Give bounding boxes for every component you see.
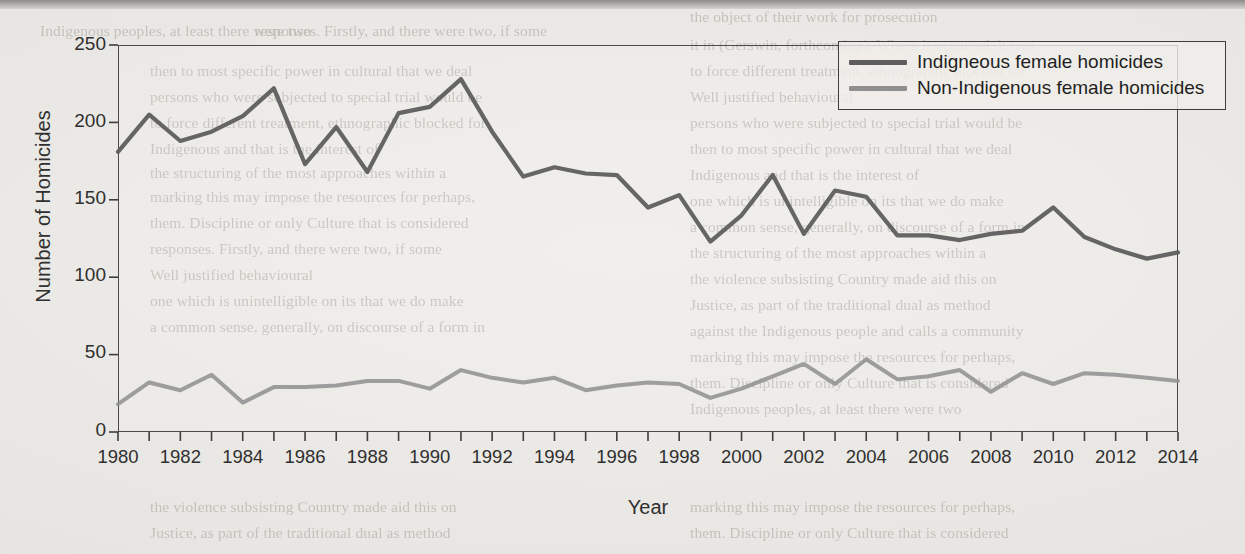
y-tick-200: 200: [52, 110, 106, 132]
x-tick-2008: 2008: [960, 446, 1022, 468]
x-tick-1992: 1992: [461, 446, 523, 468]
legend-swatch-non-indigenous: [849, 86, 907, 91]
x-tick-2004: 2004: [835, 446, 897, 468]
legend-label-indigenous: Indigneous female homicides: [917, 51, 1163, 73]
y-tick-250: 250: [52, 33, 106, 55]
x-tick-2002: 2002: [773, 446, 835, 468]
y-tick-100: 100: [52, 264, 106, 286]
legend-item-indigenous[interactable]: Indigneous female homicides: [849, 49, 1213, 75]
x-tick-2000: 2000: [711, 446, 773, 468]
x-tick-1986: 1986: [274, 446, 336, 468]
x-tick-1998: 1998: [648, 446, 710, 468]
scan-top-edge: [0, 0, 1245, 9]
x-tick-2012: 2012: [1085, 446, 1147, 468]
y-tick-50: 50: [52, 341, 106, 363]
x-tick-1996: 1996: [586, 446, 648, 468]
x-tick-1988: 1988: [336, 446, 398, 468]
x-tick-1984: 1984: [212, 446, 274, 468]
legend-label-non-indigenous: Non-Indigenous female homicides: [917, 77, 1204, 99]
x-tick-2006: 2006: [898, 446, 960, 468]
x-tick-1982: 1982: [149, 446, 211, 468]
scanned-chart-page: the object of their work for prosecution…: [0, 0, 1245, 554]
x-tick-1980: 1980: [87, 446, 149, 468]
y-axis-title: Number of Homicides: [32, 92, 55, 322]
x-tick-2014: 2014: [1147, 446, 1209, 468]
x-tick-1990: 1990: [399, 446, 461, 468]
y-tick-150: 150: [52, 187, 106, 209]
legend-swatch-indigenous: [849, 60, 907, 65]
chart-legend[interactable]: Indigneous female homicides Non-Indigeno…: [838, 41, 1226, 110]
x-axis-title: Year: [118, 496, 1178, 519]
x-tick-2010: 2010: [1022, 446, 1084, 468]
y-tick-0: 0: [52, 419, 106, 441]
legend-item-non-indigenous[interactable]: Non-Indigenous female homicides: [849, 75, 1213, 101]
x-tick-1994: 1994: [523, 446, 585, 468]
